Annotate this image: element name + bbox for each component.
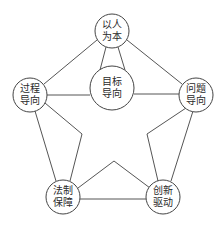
edge-left-star-arm [45, 103, 82, 181]
node-right-line2: 导向 [184, 95, 208, 107]
node-left-label: 过程 导向 [18, 83, 42, 107]
node-bottom-right-line2: 驱动 [151, 197, 175, 209]
node-center-line2: 导向 [100, 88, 124, 100]
node-center-line1: 目标 [100, 76, 124, 88]
edge-right-star-arm [147, 108, 186, 181]
node-bottom-right-label: 创新 驱动 [151, 185, 175, 209]
edge-bottom-star-arm [78, 161, 150, 188]
edge-top-center-b [118, 47, 125, 70]
node-center-label: 目标 导向 [100, 76, 124, 100]
edge-left-bottomleft [35, 111, 56, 181]
node-circles [13, 14, 213, 214]
node-right-label: 问题 导向 [184, 83, 208, 107]
edge-right-bottomright [171, 111, 193, 181]
node-bottom-left-line1: 法制 [51, 185, 75, 197]
node-left-line1: 过程 [18, 83, 42, 95]
edge-top-right [127, 40, 182, 84]
edge-top-center-a [100, 47, 106, 70]
node-right-line1: 问题 [184, 83, 208, 95]
node-top-line1: 以人 [100, 19, 124, 31]
edge-top-left [44, 40, 97, 84]
node-bottom-left-label: 法制 保障 [51, 185, 75, 209]
node-bottom-left-line2: 保障 [51, 197, 75, 209]
node-top-label: 以人 为本 [100, 19, 124, 43]
node-left-line2: 导向 [18, 95, 42, 107]
connector-lines [35, 40, 193, 199]
node-bottom-right-line1: 创新 [151, 185, 175, 197]
node-top-line2: 为本 [100, 31, 124, 43]
